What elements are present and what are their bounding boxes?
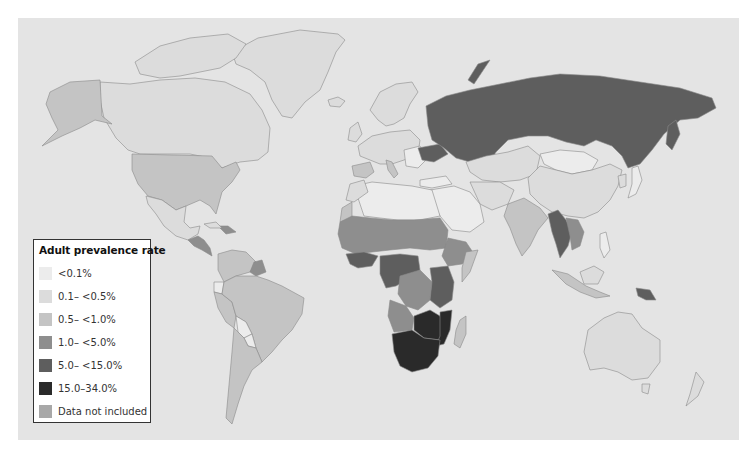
legend-item-lt-0-1: <0.1%	[39, 262, 150, 285]
region-myanmar-thailand	[548, 210, 572, 258]
region-india	[504, 198, 548, 256]
region-central-america	[188, 236, 212, 256]
legend-label: 0.1– <0.5%	[58, 291, 116, 302]
map-legend: Adult prevalence rate <0.1% 0.1– <0.5% 0…	[33, 239, 151, 423]
region-korea	[618, 174, 626, 188]
region-north-africa	[354, 182, 440, 220]
region-japan	[628, 166, 642, 198]
region-drc	[398, 270, 432, 310]
legend-swatch	[39, 313, 52, 326]
region-sahel	[338, 216, 448, 254]
region-cuba	[204, 222, 222, 228]
region-papua-new-guinea	[636, 288, 656, 300]
legend-swatch	[39, 336, 52, 349]
region-borneo	[580, 266, 604, 284]
legend-swatch	[39, 359, 52, 372]
legend-label: 0.5– <1.0%	[58, 314, 116, 325]
legend-label: <0.1%	[58, 268, 92, 279]
region-philippines	[600, 232, 610, 258]
region-scandinavia	[370, 82, 418, 126]
legend-swatch	[39, 405, 52, 418]
legend-label: Data not included	[58, 406, 147, 417]
region-new-zealand	[686, 372, 704, 406]
legend-item-15-0-to-34-0: 15.0–34.0%	[39, 377, 150, 400]
region-east-africa	[430, 266, 454, 308]
legend-item-0-1-to-0-5: 0.1– <0.5%	[39, 285, 150, 308]
region-tasmania	[642, 384, 650, 394]
region-canada	[100, 78, 270, 168]
region-madagascar	[454, 316, 466, 348]
legend-item-0-5-to-1-0: 0.5– <1.0%	[39, 308, 150, 331]
legend-swatch	[39, 267, 52, 280]
region-novaya-zemlya	[468, 60, 490, 84]
legend-label: 15.0–34.0%	[58, 383, 117, 394]
legend-item-data-not-included: Data not included	[39, 400, 150, 423]
region-iceland	[328, 97, 345, 107]
region-australia	[584, 312, 660, 380]
legend-label: 5.0– <15.0%	[58, 360, 122, 371]
legend-item-1-0-to-5-0: 1.0– <5.0%	[39, 331, 150, 354]
legend-label: 1.0– <5.0%	[58, 337, 116, 348]
region-uk-ireland	[348, 122, 362, 142]
region-turkey	[420, 176, 452, 188]
region-canada-arctic	[135, 34, 246, 78]
legend-swatch	[39, 382, 52, 395]
legend-item-5-0-to-15-0: 5.0– <15.0%	[39, 354, 150, 377]
region-spain	[352, 162, 374, 178]
legend-swatch	[39, 290, 52, 303]
legend-title: Adult prevalence rate	[39, 244, 150, 256]
region-west-africa-coast	[346, 252, 378, 268]
